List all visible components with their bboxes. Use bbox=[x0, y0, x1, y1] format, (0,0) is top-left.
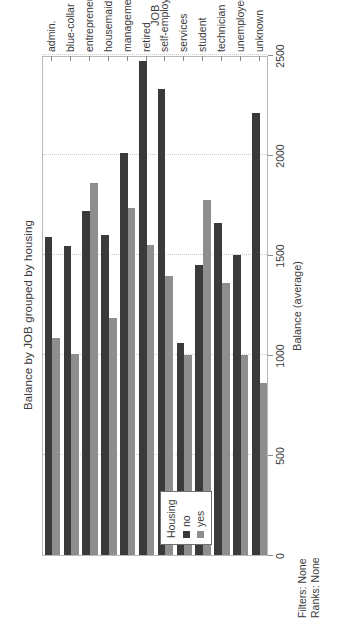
legend-label: no bbox=[180, 515, 192, 527]
bar-unknown-yes[interactable] bbox=[260, 383, 268, 555]
category-axis-tick bbox=[127, 56, 128, 61]
category-axis-label: retired bbox=[140, 22, 152, 52]
value-axis-tick bbox=[268, 355, 273, 356]
value-axis-tick bbox=[268, 55, 273, 56]
value-axis-tick-label: 2000 bbox=[274, 144, 286, 167]
value-axis-tick-label: 500 bbox=[274, 447, 286, 465]
bar-management-no[interactable] bbox=[120, 153, 128, 555]
legend-item-yes[interactable]: yes bbox=[194, 499, 206, 538]
value-axis-tick-label: 1500 bbox=[274, 244, 286, 267]
bar-entrepreneur-no[interactable] bbox=[82, 211, 90, 555]
rotated-figure-wrapper: Balance by JOB grouped by housing 050010… bbox=[0, 0, 337, 630]
legend-title: Housing bbox=[165, 499, 177, 538]
bar-unemployed-yes[interactable] bbox=[241, 355, 249, 555]
category-axis-tick bbox=[70, 56, 71, 61]
legend-swatch-icon bbox=[183, 531, 190, 538]
category-axis-tick bbox=[89, 56, 90, 61]
bar-retired-no[interactable] bbox=[139, 61, 147, 555]
legend[interactable]: Housing noyes bbox=[160, 491, 212, 545]
bar-admin--no[interactable] bbox=[45, 237, 53, 555]
value-axis-tick-label: 2500 bbox=[274, 44, 286, 67]
value-axis-tick bbox=[268, 455, 273, 456]
bar-blue-collar-yes[interactable] bbox=[71, 354, 79, 555]
bar-entrepreneur-yes[interactable] bbox=[90, 183, 98, 555]
plot-area bbox=[42, 56, 268, 556]
bar-blue-collar-no[interactable] bbox=[64, 246, 72, 555]
value-axis-tick-label: 0 bbox=[274, 553, 286, 559]
value-axis-title: Balance (average) bbox=[291, 56, 303, 556]
bar-management-yes[interactable] bbox=[128, 208, 136, 555]
category-axis-tick bbox=[146, 56, 147, 61]
gridline bbox=[43, 53, 267, 55]
category-axis-tick bbox=[240, 56, 241, 61]
bar-housemaid-yes[interactable] bbox=[109, 318, 117, 555]
bar-admin--yes[interactable] bbox=[52, 338, 60, 555]
category-axis-title: JOB bbox=[42, 5, 268, 26]
legend-items: noyes bbox=[180, 499, 206, 538]
page-title: Balance by JOB grouped by housing bbox=[22, 0, 34, 630]
bar-technician-no[interactable] bbox=[214, 223, 222, 555]
category-axis-tick bbox=[202, 56, 203, 61]
value-axis-tick bbox=[268, 555, 273, 556]
legend-label: yes bbox=[194, 511, 206, 527]
category-axis-tick bbox=[259, 56, 260, 61]
gridline bbox=[43, 153, 267, 155]
bar-self-employed-no[interactable] bbox=[158, 89, 166, 555]
value-axis-tick-label: 1000 bbox=[274, 344, 286, 367]
value-axis-tick bbox=[268, 255, 273, 256]
footer-notes: Filters: None Ranks: None bbox=[296, 557, 322, 618]
bar-unemployed-no[interactable] bbox=[233, 255, 241, 555]
chart-figure: Balance by JOB grouped by housing 050010… bbox=[0, 0, 337, 630]
category-axis-tick bbox=[51, 56, 52, 61]
bar-housemaid-no[interactable] bbox=[101, 235, 109, 555]
legend-item-no[interactable]: no bbox=[180, 499, 192, 538]
category-axis-tick bbox=[183, 56, 184, 61]
category-axis-tick bbox=[164, 56, 165, 61]
bar-technician-yes[interactable] bbox=[222, 283, 230, 555]
filters-note: Filters: None bbox=[296, 557, 309, 618]
value-axis-tick bbox=[268, 155, 273, 156]
category-axis-tick bbox=[108, 56, 109, 61]
bar-retired-yes[interactable] bbox=[147, 245, 155, 555]
category-axis-tick bbox=[221, 56, 222, 61]
ranks-note: Ranks: None bbox=[309, 557, 322, 618]
legend-swatch-icon bbox=[197, 531, 204, 538]
bar-unknown-no[interactable] bbox=[252, 113, 260, 555]
